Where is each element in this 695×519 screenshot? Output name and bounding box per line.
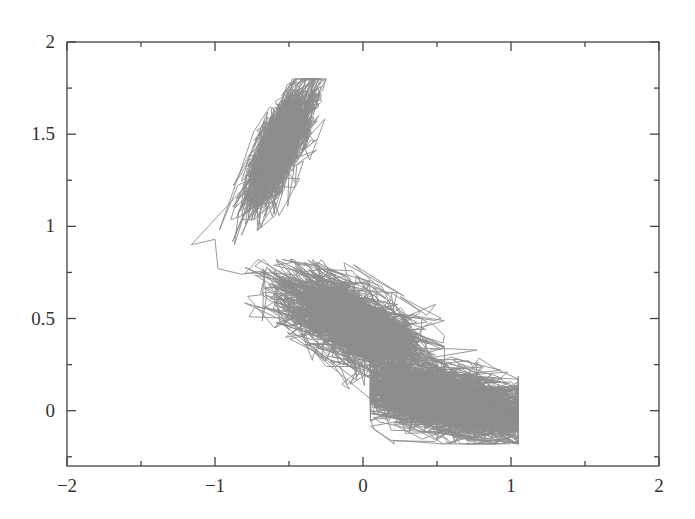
x-tick-label: −2 [57,475,77,496]
trajectory-series [191,79,518,444]
y-tick-label: 0.5 [31,308,55,329]
y-tick-label: 1 [46,215,56,236]
trajectory-chart: −2−1012 00.511.52 [0,0,695,519]
axis-ticks [67,42,659,466]
y-tick-label: 0 [46,400,56,421]
y-tick-label: 2 [46,31,56,52]
plot-frame [67,42,659,466]
y-axis-tick-labels: 00.511.52 [31,31,55,421]
x-tick-label: 1 [506,475,516,496]
x-tick-label: 0 [358,475,368,496]
y-tick-label: 1.5 [31,123,55,144]
x-axis-tick-labels: −2−1012 [57,475,664,496]
x-tick-label: 2 [654,475,664,496]
x-tick-label: −1 [205,475,225,496]
